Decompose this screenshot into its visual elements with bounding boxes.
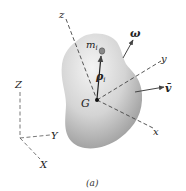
center-of-mass-label: G	[81, 97, 90, 110]
y-axis-label: y	[160, 53, 167, 64]
figure-caption: (a)	[86, 178, 99, 188]
rigid-body-diagram: z y x mi ρi ω v̄ G Z Y X (a)	[0, 0, 186, 191]
x-axis-label: x	[153, 126, 159, 137]
fixed-Z-label: Z	[14, 79, 23, 90]
fixed-X-label: X	[39, 159, 48, 170]
fixed-Y-axis	[20, 135, 50, 138]
omega-label: ω	[130, 27, 141, 40]
particle-mass	[99, 48, 105, 54]
z-axis-label: z	[58, 9, 65, 20]
fixed-Y-label: Y	[51, 130, 59, 141]
velocity-label: v̄	[165, 82, 172, 95]
center-of-mass-point	[95, 98, 99, 102]
angular-velocity-arrow	[123, 40, 133, 58]
fixed-X-axis	[20, 138, 40, 159]
